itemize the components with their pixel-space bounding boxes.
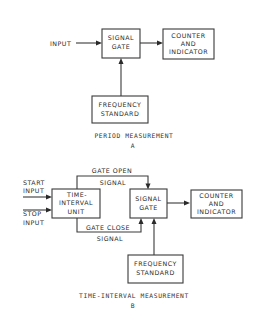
arrow-head-icon — [46, 208, 52, 213]
stop-input-label: INPUT — [23, 219, 44, 226]
start-label: START — [23, 179, 45, 186]
frequency-standard-block: FREQUENCY STANDARD — [128, 255, 183, 283]
frequency-standard-block: FREQUENCY STANDARD — [92, 96, 148, 123]
svg-text:TIME-: TIME- — [66, 191, 87, 198]
arrow-head-icon — [157, 41, 163, 46]
input-label: INPUT — [50, 40, 71, 47]
counter-indicator-block: COUNTER AND INDICATOR — [163, 29, 214, 59]
gate-open-signal-label: SIGNAL — [100, 179, 126, 186]
start-input-label: INPUT — [23, 187, 44, 194]
svg-text:INTERVAL: INTERVAL — [59, 199, 93, 206]
arrow-head-icon — [46, 195, 52, 200]
arrow-head-icon — [139, 218, 144, 224]
svg-text:UNIT: UNIT — [67, 208, 84, 215]
arrow-head-icon — [152, 218, 157, 224]
time-interval-unit-block: TIME- INTERVAL UNIT — [52, 189, 100, 218]
caption-letter-a: A — [131, 142, 135, 149]
gate-close-label: GATE CLOSE — [86, 224, 130, 231]
gate-close-signal-label: SIGNAL — [97, 235, 123, 242]
svg-text:COUNTER: COUNTER — [199, 192, 233, 199]
svg-text:INDICATOR: INDICATOR — [169, 48, 208, 55]
svg-text:GATE: GATE — [139, 204, 158, 211]
diagram-time-interval-measurement: GATE OPEN SIGNAL START INPUT STOP INPUT … — [23, 167, 242, 309]
svg-text:GATE: GATE — [112, 43, 131, 50]
svg-text:SIGNAL: SIGNAL — [108, 34, 134, 41]
svg-text:FREQUENCY: FREQUENCY — [134, 260, 177, 267]
svg-text:AND: AND — [209, 200, 224, 207]
gate-open-label: GATE OPEN — [92, 167, 132, 174]
diagram-period-measurement: INPUT SIGNAL GATE COUNTER AND INDICATOR … — [50, 29, 214, 149]
svg-text:STANDARD: STANDARD — [136, 269, 175, 276]
caption-letter-b: B — [131, 302, 135, 309]
stop-label: STOP — [23, 210, 42, 217]
svg-text:COUNTER: COUNTER — [171, 32, 205, 39]
caption-b: TIME-INTERVAL MEASUREMENT — [79, 292, 189, 299]
arrow-head-icon — [184, 201, 190, 206]
arrow-head-icon — [96, 41, 102, 46]
svg-text:SIGNAL: SIGNAL — [135, 195, 161, 202]
svg-text:FREQUENCY: FREQUENCY — [99, 101, 142, 108]
svg-text:INDICATOR: INDICATOR — [197, 208, 236, 215]
signal-gate-block: SIGNAL GATE — [102, 29, 140, 58]
caption-a: PERIOD MEASUREMENT — [94, 132, 173, 139]
svg-text:AND: AND — [181, 40, 196, 47]
svg-text:STANDARD: STANDARD — [101, 110, 140, 117]
block-diagrams: INPUT SIGNAL GATE COUNTER AND INDICATOR … — [0, 0, 263, 321]
counter-indicator-block: COUNTER AND INDICATOR — [191, 190, 242, 218]
arrow-head-icon — [119, 58, 124, 64]
signal-gate-block: SIGNAL GATE — [130, 189, 167, 218]
